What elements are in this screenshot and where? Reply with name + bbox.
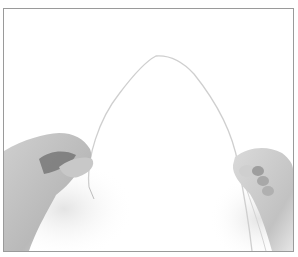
photo: Two hands holding a thin flexible wire b… — [3, 8, 294, 252]
right-hand-finger-1 — [252, 166, 264, 176]
photo-canvas — [4, 9, 293, 251]
right-hand-finger-2 — [257, 176, 269, 186]
right-hand-finger-3 — [262, 186, 274, 196]
